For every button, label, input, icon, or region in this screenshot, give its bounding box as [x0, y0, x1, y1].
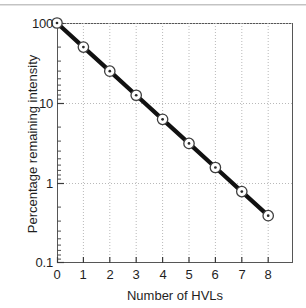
data-point-markers [52, 18, 274, 221]
xtick-label-1: 1 [73, 268, 93, 281]
page-top-rule-shadow [0, 5, 306, 6]
x-axis-title: Number of HVLs [57, 289, 293, 303]
y-axis-title: Percentage remaining intensity [26, 24, 40, 264]
plot-canvas [57, 23, 293, 263]
yaxis-major-ticks [57, 24, 64, 263]
xtick-label-0: 0 [47, 268, 67, 281]
xtick-label-2: 2 [100, 268, 120, 281]
gridlines-horizontal-major [57, 24, 293, 184]
xtick-label-7: 7 [232, 268, 252, 281]
xaxis-major-ticks [58, 257, 269, 263]
xtick-label-6: 6 [205, 268, 225, 281]
xtick-label-3: 3 [126, 268, 146, 281]
xtick-label-4: 4 [153, 268, 173, 281]
gridlines-vertical-major [83, 23, 268, 263]
yaxis-minor-ticks [57, 47, 61, 259]
xtick-label-8: 8 [258, 268, 278, 281]
figure-chart-hvl-attenuation: 100 10 1 0.1 0 1 2 3 4 5 6 7 8 Number of… [0, 0, 306, 308]
xtick-label-5: 5 [179, 268, 199, 281]
